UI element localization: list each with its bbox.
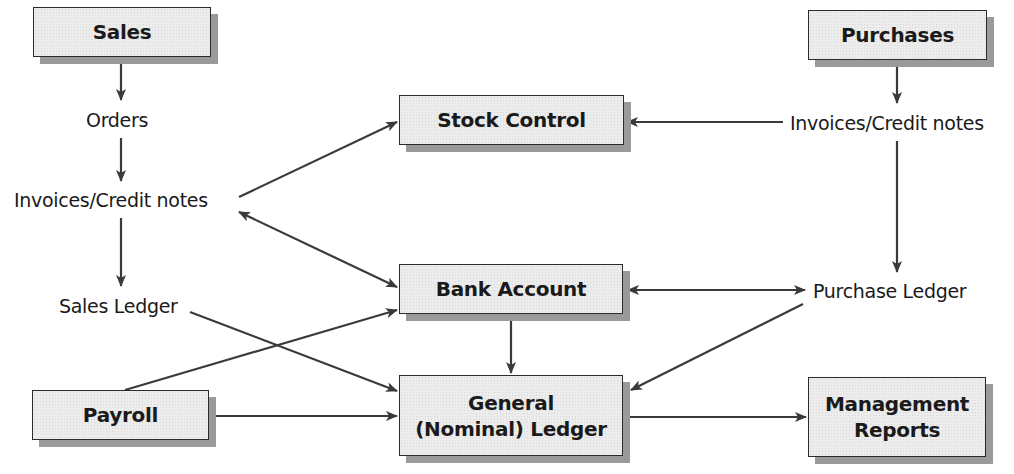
bank-account-box: Bank Account (399, 264, 623, 314)
purchases-box: Purchases (808, 10, 987, 60)
payroll-label: Payroll (83, 402, 158, 428)
management-reports-box: Management Reports (808, 377, 986, 457)
bank-account-label: Bank Account (436, 276, 587, 302)
sales-box: Sales (33, 7, 211, 57)
general-ledger-label-line2: (Nominal) Ledger (415, 416, 607, 442)
stock-control-label: Stock Control (437, 107, 586, 133)
edge-payroll-bank-account (125, 310, 397, 390)
general-ledger-label-line1: General (468, 390, 554, 416)
general-ledger-box: General (Nominal) Ledger (399, 375, 623, 456)
stock-control-box: Stock Control (399, 95, 624, 145)
edge-purchase-ledger-general-ledger (631, 304, 803, 390)
edge-sales-ledger-general-ledger (190, 312, 397, 391)
sales-label: Sales (93, 19, 152, 45)
purchase-ledger-label: Purchase Ledger (813, 280, 966, 302)
payroll-box: Payroll (32, 390, 209, 440)
edge-invoices-stock-control (239, 122, 397, 197)
orders-label: Orders (86, 109, 148, 131)
sales-ledger-label: Sales Ledger (59, 295, 178, 317)
edge-invoices-bank-account (239, 212, 397, 287)
sales-invoices-label: Invoices/Credit notes (14, 189, 208, 211)
purchases-label: Purchases (841, 22, 954, 48)
management-reports-label-line2: Reports (854, 417, 940, 443)
purchase-invoices-label: Invoices/Credit notes (790, 112, 984, 134)
management-reports-label-line1: Management (825, 391, 969, 417)
